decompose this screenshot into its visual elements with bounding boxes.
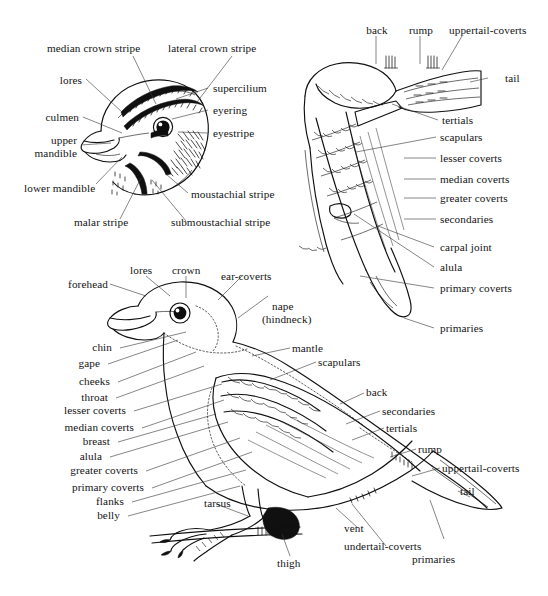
body-label-nape-line1: nape bbox=[272, 300, 294, 313]
wing-label-scapulars: scapulars bbox=[440, 131, 483, 144]
body-label-lores: lores bbox=[130, 264, 152, 277]
body-label-secondaries: secondaries bbox=[382, 405, 435, 418]
body-label-alula: alula bbox=[30, 450, 102, 463]
head-label-malar-stripe: malar stripe bbox=[74, 216, 128, 229]
body-label-chin: chin bbox=[30, 341, 112, 354]
body-label-primaries: primaries bbox=[412, 553, 455, 566]
body-label-forehead: forehead bbox=[30, 278, 108, 291]
body-label-lesser-coverts: lesser coverts bbox=[20, 404, 126, 417]
body-label-tail: tail bbox=[460, 485, 475, 498]
head-label-submoustachial-stripe: submoustachial stripe bbox=[171, 216, 270, 229]
head-label-upper-mandible-l1: upper bbox=[0, 134, 77, 147]
body-label-greater-coverts: greater coverts bbox=[18, 464, 138, 477]
wing-label-primary-coverts: primary coverts bbox=[440, 282, 512, 295]
bird-topography-figure: median crown stripe lateral crown stripe… bbox=[0, 0, 548, 596]
head-label-moustachial-stripe: moustachial stripe bbox=[191, 188, 275, 201]
head-label-lateral-crown-stripe: lateral crown stripe bbox=[168, 42, 256, 55]
body-label-cheeks: cheeks bbox=[30, 375, 110, 388]
wing-label-back: back bbox=[357, 24, 397, 37]
wing-label-uppertail-coverts: uppertail-coverts bbox=[449, 24, 527, 37]
body-label-crown: crown bbox=[172, 264, 200, 277]
body-label-rump: rump bbox=[418, 443, 442, 456]
body-label-undertail-coverts: undertail-coverts bbox=[344, 540, 422, 553]
head-label-supercilium: supercilium bbox=[213, 82, 267, 95]
body-label-ear-coverts: ear-coverts bbox=[221, 270, 272, 283]
body-label-belly: belly bbox=[30, 509, 120, 522]
head-label-eyering: eyering bbox=[213, 104, 247, 117]
body-label-flanks: flanks bbox=[30, 495, 124, 508]
body-label-throat: throat bbox=[30, 391, 108, 404]
wing-label-alula: alula bbox=[440, 261, 462, 274]
body-label-gape: gape bbox=[30, 357, 100, 370]
head-label-lower-mandible: lower mandible bbox=[24, 182, 95, 195]
wing-label-primaries: primaries bbox=[440, 322, 483, 335]
head-label-upper-mandible-l2: mandible bbox=[0, 147, 77, 160]
head-label-lores: lores bbox=[0, 74, 82, 87]
wing-label-rump: rump bbox=[401, 24, 441, 37]
wing-label-tertials: tertials bbox=[442, 114, 473, 127]
body-label-vent: vent bbox=[344, 522, 364, 535]
head-label-eyestripe: eyestripe bbox=[213, 127, 254, 140]
head-label-culmen: culmen bbox=[0, 111, 79, 124]
body-label-mantle: mantle bbox=[292, 342, 323, 355]
body-label-nape-line2: (hindneck) bbox=[262, 313, 311, 326]
head-label-median-crown-stripe: median crown stripe bbox=[47, 42, 140, 55]
wing-label-lesser-coverts: lesser coverts bbox=[440, 152, 502, 165]
wing-label-carpal-joint: carpal joint bbox=[440, 241, 492, 254]
body-label-tarsus: tarsus bbox=[204, 497, 231, 510]
body-label-primary-coverts: primary coverts bbox=[18, 481, 144, 494]
wing-label-secondaries: secondaries bbox=[440, 213, 493, 226]
body-label-breast: breast bbox=[30, 435, 110, 448]
wing-illustration bbox=[299, 56, 481, 317]
head-illustration bbox=[81, 80, 208, 195]
wing-label-median-coverts: median coverts bbox=[440, 173, 509, 186]
body-label-uppertail-coverts: uppertail-coverts bbox=[442, 462, 520, 475]
body-label-tertials: tertials bbox=[386, 422, 417, 435]
body-label-back: back bbox=[366, 386, 388, 399]
body-label-median-coverts: median coverts bbox=[18, 421, 134, 434]
body-label-scapulars: scapulars bbox=[318, 356, 361, 369]
wing-label-greater-coverts: greater coverts bbox=[440, 192, 508, 205]
body-label-thigh: thigh bbox=[277, 557, 301, 570]
wing-label-tail: tail bbox=[505, 72, 520, 85]
